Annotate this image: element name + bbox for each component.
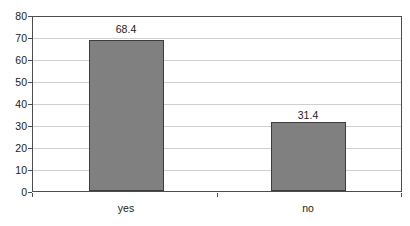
y-tick-label-0: 0: [3, 187, 27, 197]
x-tick-mark-middle: [217, 193, 218, 197]
x-tick-mark-end: [401, 193, 402, 197]
bar-no: [271, 122, 346, 191]
x-category-label-yes: yes: [88, 202, 164, 214]
gridline-70: [33, 38, 401, 39]
x-tick-mark-start: [32, 193, 33, 197]
y-tick-label-50: 50: [3, 77, 27, 87]
y-tick-label-30: 30: [3, 121, 27, 131]
y-tick-label-70: 70: [3, 33, 27, 43]
y-tick-label-20: 20: [3, 143, 27, 153]
y-tick-label-80: 80: [3, 11, 27, 21]
y-tick-label-40: 40: [3, 99, 27, 109]
bar-value-no: 31.4: [270, 110, 346, 121]
bar-value-yes: 68.4: [88, 24, 164, 35]
y-axis: 80 70 60 50 40 30 20 10 0: [0, 0, 27, 226]
plot-area: [32, 16, 402, 192]
y-tick-label-60: 60: [3, 55, 27, 65]
x-category-label-no: no: [270, 202, 346, 214]
y-tick-label-10: 10: [3, 165, 27, 175]
bar-chart: 80 70 60 50 40 30 20 10 0 68.4 31.4 yes: [0, 0, 410, 226]
bar-yes: [89, 40, 164, 191]
